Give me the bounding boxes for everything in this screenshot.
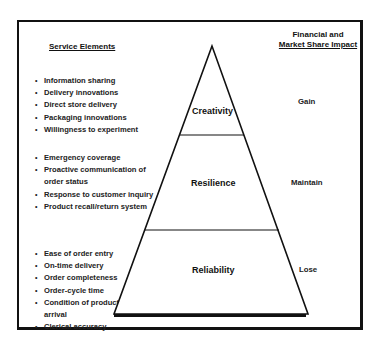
impact-lose: Lose	[299, 265, 317, 275]
impact-gain: Gain	[298, 97, 315, 107]
impact-maintain: Maintain	[291, 178, 323, 188]
tier-label-reliability: Reliability	[192, 265, 235, 276]
tier-label-resilience: Resilience	[191, 178, 236, 189]
tier-label-creativity: Creativity	[192, 106, 233, 117]
pyramid-shape	[0, 0, 379, 344]
